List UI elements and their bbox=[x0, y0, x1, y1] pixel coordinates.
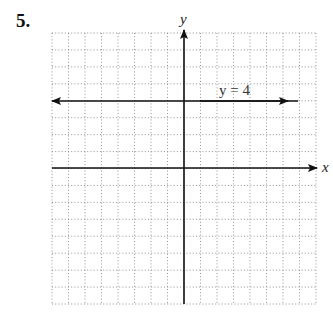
line-label: y = 4 bbox=[219, 82, 250, 98]
coordinate-plane: x y y = 4 bbox=[0, 0, 333, 312]
x-axis-label: x bbox=[321, 159, 329, 175]
y-axis-label: y bbox=[178, 11, 187, 27]
